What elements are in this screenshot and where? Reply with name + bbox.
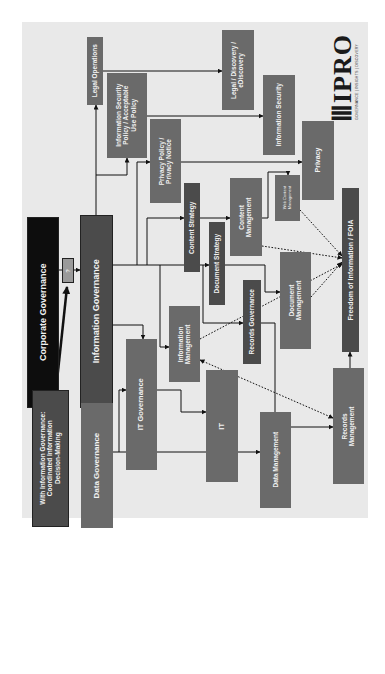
infosec-policy-box: Information Security Policy / Acceptable… <box>107 73 147 158</box>
ipro-logo-icon: Ⅲ <box>328 103 357 122</box>
content-management-label: Content Management <box>239 197 254 237</box>
legal-operations-box: Legal Operations <box>87 37 103 105</box>
web-content-management-box: Web Content Management <box>275 175 300 221</box>
privacy-box: Privacy <box>302 121 334 200</box>
foia-box: Freedom of Information / FOIA <box>342 188 359 352</box>
records-management-box: Records Management <box>333 368 364 484</box>
data-management-box: Data Management <box>260 412 291 508</box>
records-management-label: Records Management <box>341 406 356 446</box>
question-box: ? <box>62 258 74 283</box>
it-box: IT <box>206 370 238 482</box>
legal-operations-label: Legal Operations <box>91 44 98 97</box>
information-management-label: Information Management <box>177 324 192 364</box>
it-label: IT <box>218 423 227 430</box>
it-governance-box: IT Governance <box>126 339 157 470</box>
legal-discovery-label: Legal / Discovery / eDiscovery <box>231 41 246 98</box>
corporate-governance-box: Corporate Governance <box>27 217 59 408</box>
information-security-box: Information Security <box>263 75 295 155</box>
privacy-policy-box: Privacy Policy / Privacy Notice <box>150 119 181 203</box>
question-label: ? <box>65 269 71 273</box>
legal-discovery-box: Legal / Discovery / eDiscovery <box>222 30 254 110</box>
with-ig-box: With Information Governance: Coordinated… <box>32 390 69 527</box>
information-management-box: Information Management <box>169 306 200 382</box>
corporate-governance-label: Corporate Governance <box>38 264 48 362</box>
it-governance-label: IT Governance <box>137 378 146 430</box>
content-management-box: Content Management <box>230 178 262 256</box>
information-security-label: Information Security <box>275 83 282 146</box>
document-strategy-box: Document Strategy <box>209 222 225 305</box>
privacy-label: Privacy <box>314 148 322 173</box>
data-management-label: Data Management <box>272 432 279 488</box>
information-governance-label: Information Governance <box>91 259 101 363</box>
ipro-logo: ⅢIPRO GOVERNANCE | INSIGHTS | DISCOVERY <box>322 28 368 128</box>
document-management-box: Document Management <box>280 252 311 349</box>
information-governance-box: Information Governance <box>80 215 113 408</box>
content-strategy-box: Content Strategy <box>184 183 200 272</box>
with-ig-label: With Information Governance: Coordinated… <box>39 412 61 505</box>
ipro-tagline: GOVERNANCE | INSIGHTS | DISCOVERY <box>355 44 359 120</box>
privacy-policy-label: Privacy Policy / Privacy Notice <box>158 137 173 185</box>
document-strategy-label: Document Strategy <box>213 234 220 294</box>
ipro-logo-mark: ⅢIPRO <box>331 34 355 122</box>
records-governance-label: Records Governance <box>248 289 255 354</box>
records-governance-box: Records Governance <box>243 280 261 364</box>
infosec-policy-label: Information Security Policy / Acceptable… <box>116 84 138 147</box>
web-content-management-label: Web Content Management <box>283 186 292 209</box>
foia-label: Freedom of Information / FOIA <box>346 219 354 320</box>
document-management-label: Document Management <box>288 281 303 321</box>
data-governance-label: Data Governance <box>92 433 101 499</box>
ipro-logo-name: IPRO <box>328 34 357 103</box>
data-governance-box: Data Governance <box>81 403 113 528</box>
content-strategy-label: Content Strategy <box>188 201 195 253</box>
